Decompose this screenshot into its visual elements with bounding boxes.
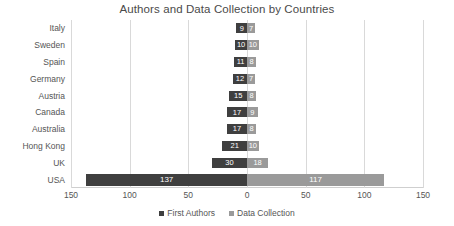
- category-label: Hong Kong: [22, 141, 65, 151]
- bar-first-authors: 21: [222, 141, 247, 151]
- x-axis-tick-label: 50: [301, 190, 310, 200]
- chart-row: UK3018: [71, 154, 423, 171]
- chart-container: Authors and Data Collection by Countries…: [0, 0, 454, 226]
- bar-value-label: 9: [240, 25, 244, 33]
- plot-area: Italy97Sweden1010Spain118Germany127Austr…: [71, 20, 423, 188]
- bar-value-label: 10: [249, 41, 257, 49]
- bar-first-authors: 9: [236, 23, 247, 33]
- legend-swatch-icon: [159, 211, 164, 216]
- category-label: USA: [48, 175, 65, 185]
- bar-value-label: 8: [250, 92, 254, 100]
- bar-data-collection: 8: [247, 57, 256, 67]
- bar-first-authors: 10: [235, 40, 247, 50]
- bar-value-label: 12: [236, 75, 244, 83]
- chart-legend: First AuthorsData Collection: [0, 208, 454, 218]
- chart-row: Canada179: [71, 104, 423, 121]
- bar-first-authors: 17: [227, 124, 247, 134]
- bar-data-collection: 10: [247, 141, 259, 151]
- legend-item[interactable]: Data Collection: [229, 208, 295, 218]
- bar-data-collection: 8: [247, 124, 256, 134]
- category-label: Germany: [30, 74, 65, 84]
- category-label: Sweden: [34, 40, 65, 50]
- x-axis-tick-label: 50: [184, 190, 193, 200]
- bar-value-label: 18: [253, 159, 261, 167]
- bar-first-authors: 17: [227, 107, 247, 117]
- bar-value-label: 17: [233, 109, 241, 117]
- bar-data-collection: 7: [247, 23, 255, 33]
- category-label: Italy: [49, 23, 65, 33]
- bar-first-authors: 137: [86, 174, 247, 186]
- bar-first-authors: 15: [229, 91, 247, 101]
- chart-row: Italy97: [71, 20, 423, 37]
- bar-data-collection: 7: [247, 74, 255, 84]
- bar-value-label: 117: [309, 176, 322, 184]
- gridline: [423, 20, 424, 188]
- x-axis-tick-label: 100: [123, 190, 137, 200]
- bar-value-label: 15: [234, 92, 242, 100]
- bar-first-authors: 12: [233, 74, 247, 84]
- chart-row: Sweden1010: [71, 37, 423, 54]
- chart-row: Hong Kong2110: [71, 138, 423, 155]
- bar-first-authors: 11: [234, 57, 247, 67]
- x-axis-tick-label: 150: [416, 190, 430, 200]
- bar-value-label: 8: [250, 58, 254, 66]
- bar-value-label: 10: [237, 41, 245, 49]
- legend-label: First Authors: [167, 208, 215, 218]
- legend-item[interactable]: First Authors: [159, 208, 215, 218]
- category-label: Austria: [39, 91, 65, 101]
- bar-data-collection: 9: [247, 107, 258, 117]
- chart-title: Authors and Data Collection by Countries: [0, 3, 454, 15]
- bar-data-collection: 8: [247, 91, 256, 101]
- chart-row: Australia178: [71, 121, 423, 138]
- legend-label: Data Collection: [237, 208, 295, 218]
- bar-value-label: 21: [231, 142, 239, 150]
- bar-value-label: 17: [233, 125, 241, 133]
- legend-swatch-icon: [229, 211, 234, 216]
- chart-row: Austria158: [71, 87, 423, 104]
- bar-value-label: 10: [249, 142, 257, 150]
- x-axis-tick-label: 150: [64, 190, 78, 200]
- bar-value-label: 11: [237, 58, 245, 66]
- bar-first-authors: 30: [212, 158, 247, 168]
- chart-row: Spain118: [71, 54, 423, 71]
- bar-value-label: 30: [225, 159, 233, 167]
- x-axis: 15010050050100150: [71, 190, 423, 204]
- category-label: UK: [53, 158, 65, 168]
- chart-row: Germany127: [71, 70, 423, 87]
- bar-value-label: 9: [250, 109, 254, 117]
- bar-value-label: 7: [249, 75, 253, 83]
- bar-value-label: 137: [160, 176, 173, 184]
- x-axis-tick-label: 0: [245, 190, 250, 200]
- bar-value-label: 7: [249, 25, 253, 33]
- category-label: Spain: [43, 57, 65, 67]
- bar-data-collection: 18: [247, 158, 268, 168]
- bar-data-collection: 10: [247, 40, 259, 50]
- category-label: Canada: [35, 107, 65, 117]
- chart-row: USA137117: [71, 171, 423, 188]
- bar-data-collection: 117: [247, 174, 384, 186]
- x-axis-tick-label: 100: [357, 190, 371, 200]
- bar-value-label: 8: [250, 125, 254, 133]
- category-label: Australia: [32, 124, 65, 134]
